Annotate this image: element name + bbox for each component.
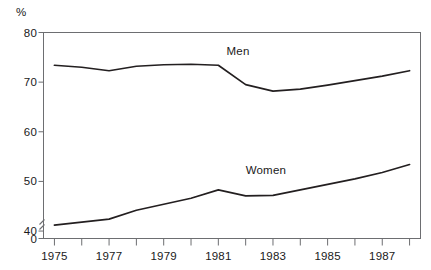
- series-line-men: [54, 64, 409, 91]
- chart-root: % 80706050401975197719791981198319851987…: [0, 0, 431, 270]
- x-tick-label-1981: 1981: [196, 250, 240, 262]
- x-tick-label-1975: 1975: [32, 250, 76, 262]
- y-tick-label-50: 50: [11, 175, 37, 187]
- series-label-women: Women: [246, 164, 286, 176]
- x-tick-label-1979: 1979: [142, 250, 186, 262]
- x-tick-label-1987: 1987: [360, 250, 404, 262]
- x-tick-label-1977: 1977: [87, 250, 131, 262]
- plot-frame: [44, 33, 421, 239]
- series-line-women: [54, 165, 409, 226]
- chart-plot-svg: [0, 0, 431, 270]
- y-tick-label-zero: 0: [11, 233, 37, 245]
- y-tick-label-80: 80: [11, 27, 37, 39]
- series-label-men: Men: [227, 45, 250, 57]
- y-tick-label-60: 60: [11, 126, 37, 138]
- y-tick-label-70: 70: [11, 76, 37, 88]
- x-tick-label-1985: 1985: [306, 250, 350, 262]
- x-tick-label-1983: 1983: [251, 250, 295, 262]
